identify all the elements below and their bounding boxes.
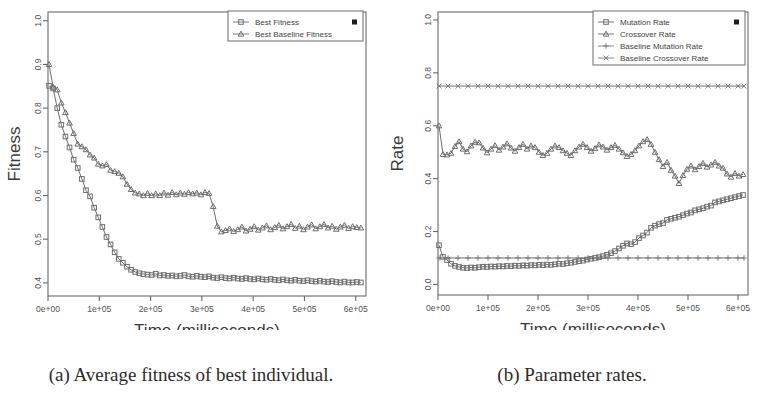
x-tick-label: 0e+00	[426, 303, 450, 313]
marker-plus	[485, 255, 490, 260]
series-line	[49, 86, 361, 283]
x-tick-label: 6e+05	[344, 304, 368, 314]
x-tick-label: 4e+05	[241, 304, 265, 314]
marker-plus	[635, 255, 640, 260]
y-axis-title: Rate	[388, 136, 407, 172]
x-tick-label: 6e+05	[726, 303, 750, 313]
y-tick-label: 0.5	[33, 233, 43, 245]
series-mutation-rate	[437, 193, 746, 271]
legend-label: Crossover Rate	[620, 30, 676, 39]
marker-plus	[705, 255, 710, 260]
y-tick-label: 0.4	[33, 277, 43, 289]
rates-plot: 0e+001e+052e+053e+054e+055e+056e+050.00.…	[381, 0, 763, 330]
marker-plus	[725, 255, 730, 260]
y-tick-label: 0.8	[33, 102, 43, 114]
figure-container: 0e+001e+052e+053e+054e+055e+056e+050.40.…	[0, 0, 763, 396]
x-tick-label: 3e+05	[576, 303, 600, 313]
marker-plus	[455, 255, 460, 260]
marker-plus	[665, 255, 670, 260]
panel-a-fitness-chart: 0e+001e+052e+053e+054e+055e+056e+050.40.…	[0, 0, 382, 330]
marker-plus	[555, 255, 560, 260]
series-line	[439, 195, 743, 268]
series-best-fitness	[47, 84, 363, 285]
marker-plus	[465, 255, 470, 260]
legend-label: Baseline Mutation Rate	[620, 42, 703, 51]
series-line	[49, 64, 361, 231]
legend-label: Best Fitness	[255, 18, 299, 27]
marker-plus	[695, 255, 700, 260]
series-crossover-rate	[436, 123, 746, 186]
marker-plus	[505, 255, 510, 260]
x-tick-label: 3e+05	[190, 304, 214, 314]
marker-plus	[741, 255, 746, 260]
marker-plus	[545, 255, 550, 260]
y-tick-label: 0.6	[423, 120, 433, 132]
x-axis-title: Time (milliseconds)	[134, 321, 280, 330]
x-tick-label: 5e+05	[676, 303, 700, 313]
fitness-plot: 0e+001e+052e+053e+054e+055e+056e+050.40.…	[0, 0, 382, 330]
marker-plus	[565, 255, 570, 260]
marker-plus	[645, 255, 650, 260]
legend-solid-square-marker	[734, 20, 739, 25]
y-tick-label: 1.0	[423, 14, 433, 26]
x-tick-label: 1e+05	[87, 304, 111, 314]
series-baseline-crossover-rate	[437, 84, 747, 89]
marker-plus	[475, 255, 480, 260]
x-tick-label: 5e+05	[293, 304, 317, 314]
y-tick-label: 0.8	[423, 67, 433, 79]
marker-plus	[625, 255, 630, 260]
legend-label: Mutation Rate	[620, 18, 670, 27]
y-tick-label: 1.0	[33, 15, 43, 27]
y-tick-label: 0.4	[423, 172, 433, 184]
marker-plus	[715, 255, 720, 260]
marker-plus	[735, 255, 740, 260]
y-tick-label: 0.0	[423, 278, 433, 290]
x-tick-label: 1e+05	[476, 303, 500, 313]
marker-plus	[605, 255, 610, 260]
y-tick-label: 0.9	[33, 58, 43, 70]
legend-label: Baseline Crossover Rate	[620, 54, 709, 63]
x-tick-label: 2e+05	[139, 304, 163, 314]
marker-plus	[655, 255, 660, 260]
caption-b: (b) Parameter rates.	[381, 358, 763, 392]
x-tick-label: 4e+05	[626, 303, 650, 313]
marker-plus	[615, 255, 620, 260]
legend-label: Best Baseline Fitness	[255, 30, 332, 39]
marker-square	[437, 243, 442, 248]
marker-plus	[535, 255, 540, 260]
y-tick-label: 0.7	[33, 146, 43, 158]
marker-plus	[685, 255, 690, 260]
y-axis-title: Fitness	[5, 127, 24, 182]
x-tick-label: 2e+05	[526, 303, 550, 313]
x-tick-label: 0e+00	[36, 304, 60, 314]
marker-plus	[515, 255, 520, 260]
marker-plus	[675, 255, 680, 260]
panel-b-rates-chart: 0e+001e+052e+053e+054e+055e+056e+050.00.…	[381, 0, 763, 330]
y-tick-label: 0.2	[423, 225, 433, 237]
caption-a: (a) Average fitness of best individual.	[0, 358, 382, 392]
marker-plus	[495, 255, 500, 260]
marker-triangle	[740, 172, 746, 177]
x-axis-title: Time (milliseconds)	[520, 320, 666, 330]
legend-solid-square-marker	[352, 20, 357, 25]
plot-frame	[48, 12, 366, 296]
y-tick-label: 0.6	[33, 189, 43, 201]
marker-plus	[525, 255, 530, 260]
